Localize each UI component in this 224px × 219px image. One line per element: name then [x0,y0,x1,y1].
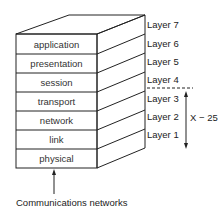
layer-stack-drawing [0,0,224,219]
layer-session: session [16,78,97,88]
bracket-label: X − 25 [190,113,218,123]
layer-link: link [16,135,97,145]
layer-7-label: Layer 7 [147,20,179,30]
box-side-face [97,15,145,168]
layer-3-label: Layer 3 [147,94,179,104]
layer-4-label: Layer 4 [147,75,179,85]
layer-presentation: presentation [16,59,97,69]
layer-6-label: Layer 6 [147,39,179,49]
layer-physical: physical [16,154,97,164]
layer-1-label: Layer 1 [147,130,179,140]
layer-5-label: Layer 5 [147,57,179,67]
communications-networks-label: Communications networks [16,198,127,208]
layer-2-label: Layer 2 [147,112,179,122]
layer-application: application [16,40,97,50]
layer-transport: transport [16,97,97,107]
box-top-face [16,15,145,34]
layer-network: network [16,116,97,126]
